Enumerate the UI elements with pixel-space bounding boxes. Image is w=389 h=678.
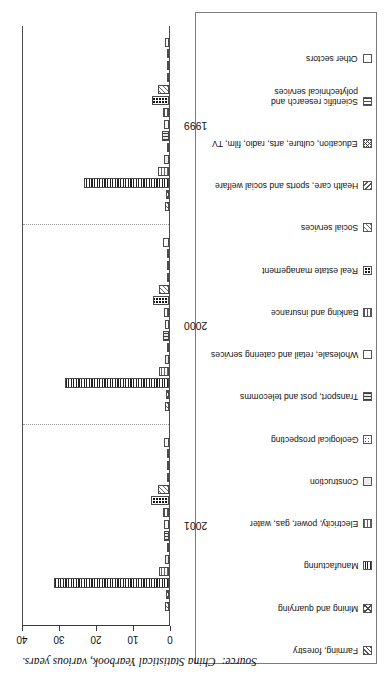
bar [164, 155, 169, 164]
axis-tick [22, 626, 23, 631]
bar [158, 485, 169, 494]
bar [167, 543, 169, 552]
legend-swatch-grid-icon [363, 519, 372, 528]
legend-item: Geological prospecting [202, 401, 372, 443]
source-prefix: Source: [222, 656, 257, 668]
bar [152, 96, 169, 105]
bar [54, 578, 169, 587]
bar [159, 285, 169, 294]
legend-swatch-dot-icon [363, 435, 372, 444]
bar [167, 143, 169, 152]
bar [167, 449, 169, 458]
figure-page: Other sectorsScientific research and pol… [0, 0, 389, 678]
bar [158, 85, 169, 94]
legend-swatch-light-icon [363, 350, 372, 359]
axis-tick [170, 626, 171, 631]
legend-item: Mining and quarrying [202, 570, 372, 612]
legend-swatch-grey-icon [363, 477, 372, 486]
chart-legend: Other sectorsScientific research and pol… [195, 12, 377, 664]
group-divider [23, 224, 169, 225]
bar [151, 496, 170, 505]
category-label-2000: 2000 [184, 320, 207, 332]
legend-item-label: Scientific research and polytechnical se… [271, 87, 358, 107]
bar [159, 367, 169, 376]
bar [167, 61, 169, 70]
bar [167, 49, 169, 58]
bar [165, 355, 169, 364]
bar [166, 590, 169, 599]
category-label-2001: 2001 [184, 520, 207, 532]
bar [163, 508, 169, 517]
bar [163, 331, 169, 340]
legend-swatch-grid-dark-icon [363, 561, 372, 570]
legend-swatch-diag2-icon [363, 223, 372, 232]
legend-swatch-xhatch-icon [363, 604, 372, 613]
bar [164, 120, 169, 129]
bar [159, 567, 169, 576]
bar [167, 473, 169, 482]
legend-item: Other sectors [202, 21, 372, 63]
bar [163, 238, 169, 247]
bar [165, 555, 169, 564]
bar [165, 38, 169, 47]
bar [167, 73, 169, 82]
bar [164, 438, 169, 447]
bar [167, 343, 169, 352]
rotated-page-wrapper: Other sectorsScientific research and pol… [0, 0, 389, 678]
legend-item: Health care, sports and social welfare [202, 148, 372, 190]
bar [153, 296, 169, 305]
axis-tick [133, 626, 134, 631]
legend-item: Transport, post and telecomms [202, 359, 372, 401]
bar [164, 531, 169, 540]
bar [158, 167, 169, 176]
legend-item: Education, culture, arts, radio, film, T… [202, 106, 372, 148]
legend-item: Real estate management [202, 232, 372, 274]
bar [163, 108, 169, 117]
bar [167, 461, 169, 470]
legend-item-list: Other sectorsScientific research and pol… [202, 21, 372, 655]
legend-swatch-vdark-icon [363, 392, 372, 401]
bar [162, 131, 169, 140]
source-note: Source: China Statistical Yearbook, vari… [22, 656, 257, 668]
legend-swatch-crosshatch-icon [363, 139, 372, 148]
legend-swatch-diag-icon [363, 181, 372, 190]
bar [166, 390, 169, 399]
legend-swatch-solidblk-icon [363, 266, 372, 275]
bar [84, 178, 169, 187]
bar [166, 190, 169, 199]
legend-item: Construction [202, 444, 372, 486]
legend-item: Farming, forestry [202, 613, 372, 655]
legend-item: Banking and insurance [202, 275, 372, 317]
bar [164, 520, 169, 529]
bar [167, 261, 169, 270]
bar [165, 602, 169, 611]
legend-item: Scientific research and polytechnical se… [202, 63, 372, 105]
legend-item-label: Farming, forestry [293, 646, 358, 656]
bar [165, 320, 169, 329]
bars-container [23, 26, 169, 625]
legend-item: Wholesale, retail and catering services [202, 317, 372, 359]
legend-swatch-hlines-icon [363, 308, 372, 317]
legend-swatch-zig-icon [363, 646, 372, 655]
bar [167, 249, 169, 258]
bar [164, 308, 169, 317]
legend-swatch-empty-icon [363, 54, 372, 63]
group-divider [23, 424, 169, 425]
bar [65, 378, 169, 387]
bar [167, 273, 169, 282]
axis-tick [96, 626, 97, 631]
source-text: China Statistical Yearbook, various year… [22, 656, 216, 668]
legend-item: Manufacturing [202, 528, 372, 570]
bar [165, 202, 169, 211]
axis-tick [59, 626, 60, 631]
legend-swatch-vlines-icon [363, 97, 372, 106]
bar-chart-plot-area [22, 26, 170, 626]
legend-item: Social services [202, 190, 372, 232]
legend-item: Electricity, power, gas, water [202, 486, 372, 528]
category-label-1999: 1999 [184, 120, 207, 132]
bar [165, 402, 169, 411]
